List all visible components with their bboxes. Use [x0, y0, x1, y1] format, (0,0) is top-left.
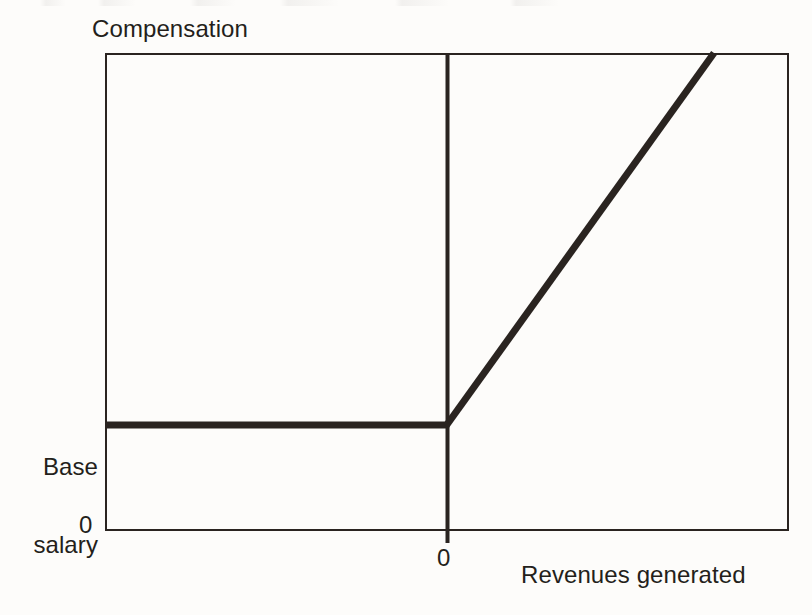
y-axis-title: Compensation [92, 16, 248, 42]
y-axis-origin-label: 0 [79, 512, 92, 538]
cropped-text-residue [40, 0, 600, 6]
x-axis-title: Revenues generated [521, 562, 746, 588]
base-salary-tick-label: Base salary [30, 402, 98, 609]
x-axis-origin-label: 0 [437, 545, 450, 571]
compensation-chart-figure: Compensation Base salary 0 0 Revenues ge… [0, 0, 812, 615]
base-salary-tick-label-line1: Base [30, 454, 98, 480]
plot-area-frame [105, 53, 789, 531]
